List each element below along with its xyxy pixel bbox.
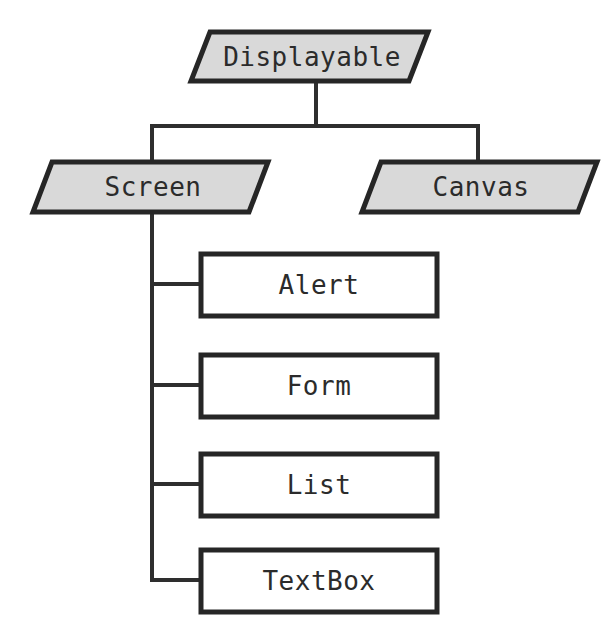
diagram-canvas: Displayable Screen Canvas Alert Form Lis… [0,0,615,639]
hierarchy-diagram: Displayable Screen Canvas Alert Form Lis… [0,0,615,639]
node-canvas[interactable]: Canvas [362,162,597,212]
node-textbox[interactable]: TextBox [201,550,437,612]
node-list-label: List [287,470,352,500]
node-canvas-label: Canvas [433,172,530,202]
node-list[interactable]: List [201,454,437,516]
node-alert[interactable]: Alert [201,254,437,316]
node-screen[interactable]: Screen [33,162,268,212]
node-form-label: Form [287,371,352,401]
node-form[interactable]: Form [201,355,437,417]
node-screen-label: Screen [105,172,202,202]
node-displayable[interactable]: Displayable [191,32,428,81]
node-textbox-label: TextBox [262,566,375,596]
node-displayable-label: Displayable [223,42,401,72]
node-alert-label: Alert [279,270,360,300]
